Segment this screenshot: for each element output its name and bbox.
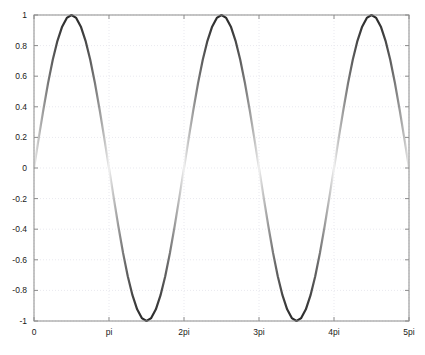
figure-container: 10.80.60.40.20-0.2-0.4-0.6-0.8-1 0pi2pi3… <box>0 0 425 355</box>
x-tick-label: 5pi <box>403 328 414 337</box>
y-tick-label: -0.4 <box>0 225 27 234</box>
x-tick-label: 0 <box>32 328 37 337</box>
x-tick-label: 2pi <box>178 328 189 337</box>
y-tick-label: -0.6 <box>0 256 27 265</box>
x-tick-label: 4pi <box>328 328 339 337</box>
x-tick-label: pi <box>106 328 113 337</box>
y-tick-label: -0.8 <box>0 286 27 295</box>
y-tick-label: 1 <box>0 11 27 20</box>
y-tick-label: 0.4 <box>0 103 27 112</box>
y-tick-label: -0.2 <box>0 194 27 203</box>
y-tick-label: -1 <box>0 317 27 326</box>
sine-wave-chart <box>0 0 425 355</box>
y-tick-label: 0.2 <box>0 133 27 142</box>
x-tick-label: 3pi <box>253 328 264 337</box>
y-tick-label: 0.8 <box>0 41 27 50</box>
y-tick-label: 0 <box>0 164 27 173</box>
y-tick-label: 0.6 <box>0 72 27 81</box>
